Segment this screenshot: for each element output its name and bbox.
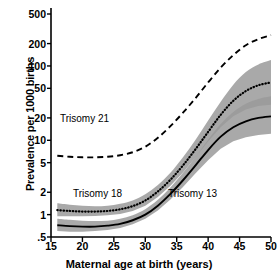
y-axis-tick-label: 500 bbox=[0, 8, 46, 20]
x-axis-tick-label: 20 bbox=[77, 240, 89, 252]
y-axis-tick-label: 100 bbox=[0, 60, 46, 72]
x-axis-tick-label: 35 bbox=[171, 240, 183, 252]
x-axis-tick-label: 15 bbox=[45, 240, 57, 252]
confidence-bands bbox=[57, 60, 271, 232]
series-label-trisomy-18: Trisomy 18 bbox=[73, 188, 122, 199]
x-axis-tick-label: 30 bbox=[139, 240, 151, 252]
prevalence-chart: Prevalence per 1000 births 5002001005020… bbox=[0, 0, 278, 278]
y-axis-tick-label: .5 bbox=[0, 231, 46, 243]
x-axis-tick-label: 45 bbox=[234, 240, 246, 252]
x-axis-tick-label: 50 bbox=[265, 240, 277, 252]
x-axis-tick-label: 25 bbox=[108, 240, 120, 252]
y-axis-tick-label: 1 bbox=[0, 209, 46, 221]
y-axis-tick-label: 2 bbox=[0, 186, 46, 198]
y-axis-tick-label: 200 bbox=[0, 38, 46, 50]
y-axis-tick-label: 10 bbox=[0, 134, 46, 146]
y-axis-tick-label: 5 bbox=[0, 157, 46, 169]
y-axis-tick-label: 50 bbox=[0, 82, 46, 94]
series-label-trisomy-13: Trisomy 13 bbox=[168, 188, 217, 199]
x-axis-tick-label: 40 bbox=[202, 240, 214, 252]
y-axis-tick-label: 20 bbox=[0, 112, 46, 124]
series-label-trisomy-21: Trisomy 21 bbox=[60, 113, 109, 124]
x-axis-title: Maternal age at birth (years) bbox=[0, 258, 278, 270]
